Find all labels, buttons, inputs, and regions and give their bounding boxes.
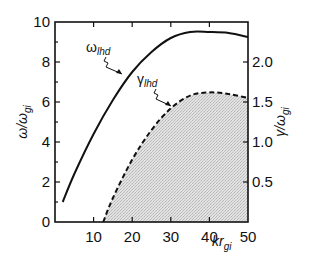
y-left-tick-label: 2 — [42, 173, 50, 190]
gamma-fill-area — [103, 92, 248, 222]
gamma-annotation: γlhd — [137, 71, 171, 106]
y-right-tick-label: 0.5 — [252, 173, 273, 190]
y-left-tick-label: 10 — [33, 13, 50, 30]
y-right-tick-label: 1.5 — [252, 93, 273, 110]
y-right-tick-label: 1.0 — [252, 133, 273, 150]
y-left-tick-label: 8 — [42, 53, 50, 70]
chart: 102030405002468100.51.01.52.0 ω/ωgi γ/ωg… — [0, 0, 311, 267]
x-tick-label: 20 — [124, 228, 141, 245]
y-left-axis-title: ω/ωgi — [14, 104, 33, 138]
plot-area — [63, 32, 248, 222]
y-right-axis-title: γ/ωgi — [272, 106, 291, 136]
x-tick-label: 30 — [162, 228, 179, 245]
omega-annotation: ωlhd — [86, 39, 122, 74]
x-axis-title: krgi — [212, 233, 232, 252]
y-left-tick-label: 4 — [42, 133, 50, 150]
gamma-label: γlhd — [137, 71, 158, 89]
y-right-tick-label: 2.0 — [252, 53, 273, 70]
x-tick-label: 10 — [85, 228, 102, 245]
y-left-tick-label: 6 — [42, 93, 50, 110]
x-tick-label: 50 — [240, 228, 257, 245]
omega-label: ωlhd — [86, 39, 111, 57]
y-left-tick-label: 0 — [42, 213, 50, 230]
